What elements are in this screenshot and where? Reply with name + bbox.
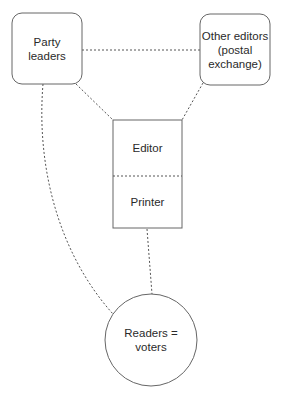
- edge-printer-to-readers: [147, 229, 152, 294]
- node-printer-label: Printer: [113, 176, 182, 228]
- readers-line-1: Readers =: [124, 326, 177, 340]
- node-other-editors-label: Other editors (postal exchange): [200, 14, 270, 85]
- other-editors-line-3: exchange): [208, 57, 262, 71]
- other-editors-line-2: (postal: [218, 43, 253, 57]
- node-party-leaders-label: Party leaders: [12, 13, 82, 84]
- node-readers-label: Readers = voters: [105, 294, 197, 386]
- party-leaders-line-1: Party: [34, 35, 61, 49]
- editor-line-1: Editor: [132, 141, 162, 155]
- other-editors-line-1: Other editors: [202, 29, 268, 43]
- edge-party-leaders-to-editor: [76, 84, 113, 120]
- party-leaders-line-2: leaders: [28, 49, 66, 63]
- printer-line-1: Printer: [131, 195, 165, 209]
- edge-party-leaders-to-readers-curve: [42, 84, 113, 314]
- node-editor-label: Editor: [113, 120, 182, 176]
- edge-other-editors-to-editor: [182, 83, 203, 120]
- readers-line-2: voters: [135, 340, 166, 354]
